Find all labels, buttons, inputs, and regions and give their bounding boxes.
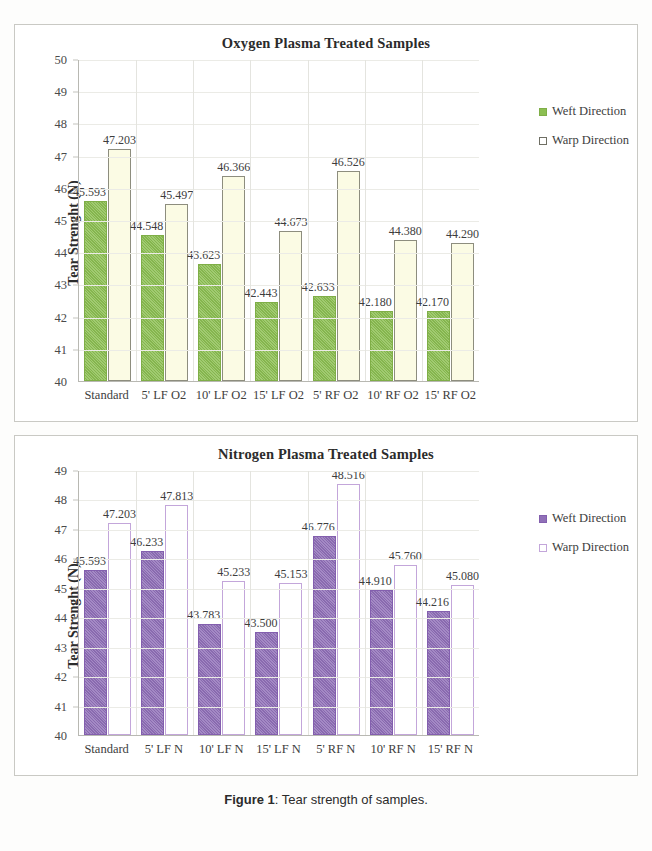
bar-warp: 47.203 [108,523,131,735]
x-axis-tick-label: 15' RF N [422,742,479,757]
bar-value-label: 44.290 [446,227,479,242]
bar-value-label: 42.170 [416,295,449,310]
bar-value-label: 44.380 [389,224,422,239]
gridline [79,471,479,472]
y-axis-tick-mark [73,618,78,619]
chart-nitrogen-bar-groups: 45.59347.20346.23347.81343.78345.23343.5… [79,471,479,735]
bar-value-label: 46.366 [217,160,250,175]
gridline [79,589,479,590]
y-axis-tick-mark [73,471,78,472]
bar-group: 45.59347.203 [79,471,136,735]
bar-value-label: 47.203 [103,133,136,148]
bar-warp: 45.153 [279,583,302,735]
gridline [79,124,479,125]
y-axis-tick-mark [73,500,78,501]
legend-label: Weft Direction [552,511,626,526]
category-separator [193,60,194,381]
legend-swatch-warp-icon [539,544,547,552]
bar-value-label: 44.673 [274,215,307,230]
y-axis-tick-mark [73,647,78,648]
legend-item-warp[interactable]: Warp Direction [539,540,629,555]
legend-item-weft[interactable]: Weft Direction [539,511,629,526]
y-axis-tick-label: 45 [55,214,68,229]
bar-value-label: 46.776 [302,520,335,535]
bar-weft: 42.633 [313,296,336,381]
x-axis-tick-label: Standard [78,388,135,403]
chart-nitrogen-legend: Weft DirectionWarp Direction [539,511,629,555]
bar-group: 43.50045.153 [250,471,307,735]
y-axis-tick-mark [73,529,78,530]
gridline [79,500,479,501]
y-axis-tick-label: 45 [55,581,68,596]
legend-item-weft[interactable]: Weft Direction [539,104,629,119]
legend-label: Warp Direction [552,133,629,148]
gridline [79,157,479,158]
bar-group: 46.23347.813 [136,471,193,735]
x-axis-tick-label: 5' LF N [135,742,192,757]
x-axis-tick-label: 10' RF O2 [364,388,421,403]
bar-value-label: 44.910 [359,574,392,589]
bar-value-label: 43.623 [187,248,220,263]
chart-oxygen-plasma: Oxygen Plasma Treated Samples Tear Stren… [14,24,638,422]
y-axis-tick-label: 42 [55,670,68,685]
x-axis-tick-label: 5' RF O2 [307,388,364,403]
bar-group: 44.91045.760 [365,471,422,735]
category-separator [422,471,423,735]
x-axis-tick-label: 5' LF O2 [135,388,192,403]
chart-oxygen-legend: Weft DirectionWarp Direction [539,104,629,148]
gridline [79,350,479,351]
y-axis-tick-mark [73,60,78,61]
category-separator [136,60,137,381]
y-axis-tick-label: 49 [55,464,68,479]
category-separator [422,60,423,381]
bar-warp: 44.290 [451,243,474,381]
bar-warp: 45.760 [394,565,417,735]
figure-caption-label: Figure 1 [224,792,275,807]
chart-nitrogen-y-axis: 49484746454443424140 [33,471,73,736]
x-axis-tick-label: 10' LF N [193,742,250,757]
y-axis-tick-label: 40 [55,375,68,390]
bar-weft: 45.593 [84,201,107,381]
figure-caption-separator: : [275,792,282,807]
chart-nitrogen-plot-body: Tear Strenght (N) 49484746454443424140 4… [15,463,637,768]
gridline [79,221,479,222]
gridline [79,92,479,93]
bar-weft: 44.910 [370,590,393,735]
y-axis-tick-mark [73,124,78,125]
legend-swatch-warp-icon [539,137,547,145]
gridline [79,648,479,649]
gridline [79,530,479,531]
chart-oxygen-title: Oxygen Plasma Treated Samples [15,25,637,52]
gridline [79,618,479,619]
y-axis-tick-label: 41 [55,699,68,714]
gridline [79,677,479,678]
bar-value-label: 43.783 [187,608,220,623]
y-axis-tick-label: 46 [55,181,68,196]
legend-item-warp[interactable]: Warp Direction [539,133,629,148]
y-axis-tick-label: 50 [55,53,68,68]
y-axis-tick-label: 44 [55,611,68,626]
bar-warp: 48.516 [337,484,360,735]
legend-swatch-weft-icon [539,108,547,116]
bar-weft: 44.216 [427,611,450,735]
y-axis-tick-label: 43 [55,278,68,293]
chart-nitrogen-plasma: Nitrogen Plasma Treated Samples Tear Str… [14,435,638,776]
gridline [79,285,479,286]
bar-warp: 44.380 [394,240,417,381]
figure-page: Oxygen Plasma Treated Samples Tear Stren… [0,0,652,851]
category-separator [308,471,309,735]
legend-swatch-weft-icon [539,515,547,523]
y-axis-tick-mark [73,317,78,318]
bar-value-label: 45.593 [73,554,106,569]
figure-caption-text: Tear strength of samples. [282,792,428,807]
category-separator [136,471,137,735]
y-axis-tick-label: 43 [55,640,68,655]
x-axis-tick-label: 10' RF N [364,742,421,757]
chart-oxygen-plot-area: 45.59347.20344.54845.49743.62346.36642.4… [78,60,479,382]
chart-nitrogen-plot-area: 45.59347.20346.23347.81343.78345.23343.5… [78,471,479,736]
y-axis-tick-label: 47 [55,149,68,164]
bar-value-label: 45.153 [274,567,307,582]
bar-weft: 44.548 [141,235,164,381]
bar-warp: 45.497 [165,204,188,381]
bar-weft: 42.170 [427,311,450,381]
